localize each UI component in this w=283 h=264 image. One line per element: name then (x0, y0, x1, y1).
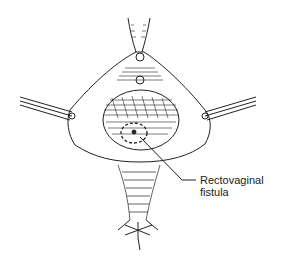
urethral-meatus (136, 53, 144, 61)
upper-tissue (128, 18, 150, 52)
perineum (118, 165, 160, 220)
anus (118, 220, 158, 250)
leader-line (140, 137, 196, 180)
surgical-illustration (0, 0, 283, 264)
fistula-label: Rectovaginal fistula (200, 174, 264, 198)
label-line-1: Rectovaginal (200, 174, 264, 186)
retracted-tissue-outline (68, 52, 210, 162)
left-retractor (20, 97, 75, 120)
right-retractor (202, 97, 256, 120)
label-line-2: fistula (200, 186, 264, 198)
